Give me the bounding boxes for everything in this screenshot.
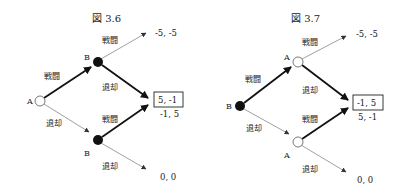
node-label: A <box>26 97 33 106</box>
edge-label-retreat: 退却 <box>246 123 262 133</box>
figure-3-7: 図 3.7 戦闘 退却 戦闘 退却 戦闘 退却 B A A -5, -5 -1,… <box>226 13 383 185</box>
edge-label-retreat: 退却 <box>302 164 318 174</box>
edge-label-retreat: 退却 <box>46 118 62 128</box>
figure-3-6: 図 3.6 戦闘 退却 戦闘 退却 戦闘 退却 A B B -5, -5 5, … <box>26 13 183 182</box>
payoff: -5, -5 <box>155 28 177 38</box>
payoff-equilibrium: -1, 5 <box>357 98 376 108</box>
figure-title: 図 3.6 <box>92 13 121 24</box>
payoff: -1, 5 <box>160 109 179 119</box>
figure-title: 図 3.7 <box>291 13 320 24</box>
node-a-open <box>293 57 303 67</box>
node-label: B <box>226 102 232 111</box>
payoff: 0, 0 <box>357 175 373 185</box>
node-b-filled <box>93 57 103 67</box>
edge-label-fight: 戦闘 <box>44 71 60 81</box>
payoff: -5, -5 <box>356 29 378 39</box>
edge-label-retreat: 退却 <box>302 85 318 95</box>
edge-label-retreat: 退却 <box>102 82 118 92</box>
payoff: 5, -1 <box>358 112 377 122</box>
edge-label-fight: 戦闘 <box>302 37 318 47</box>
edge-fight <box>244 67 291 103</box>
edge-label-fight: 戦闘 <box>102 114 118 124</box>
node-b-filled <box>93 135 103 145</box>
edge-label-retreat: 退却 <box>102 161 118 171</box>
edge-label-fight: 戦闘 <box>245 74 261 84</box>
node-label: A <box>283 151 290 160</box>
node-a-open <box>293 137 303 147</box>
node-label: B <box>84 53 90 62</box>
edge-retreat <box>102 65 148 98</box>
payoff-equilibrium: 5, -1 <box>158 95 177 105</box>
payoff: 0, 0 <box>160 172 176 182</box>
node-a-open <box>35 96 45 106</box>
node-label: A <box>283 53 290 62</box>
node-label: B <box>84 149 90 158</box>
edge-label-fight: 戦闘 <box>302 114 318 124</box>
node-b-filled <box>235 101 245 111</box>
edge-label-fight: 戦闘 <box>102 35 118 45</box>
